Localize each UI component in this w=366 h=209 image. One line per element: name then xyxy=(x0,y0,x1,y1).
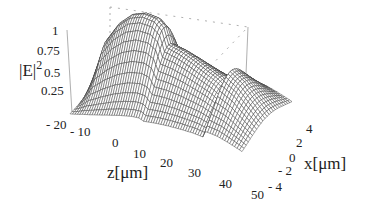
zcoord-tick-30: 30 xyxy=(188,166,201,179)
wireframe-mesh xyxy=(70,13,292,152)
zcoord-tick-40: 40 xyxy=(219,177,232,190)
ztick-1: 1 xyxy=(52,24,59,37)
xtick-m4: - 4 xyxy=(268,180,282,193)
z-axis-title: |E|2 xyxy=(19,59,42,79)
ztick-075: 0.75 xyxy=(37,44,60,57)
zcoord-tick-m10: - 10 xyxy=(70,125,91,138)
x-axis-title: x[μm] xyxy=(304,155,346,172)
zcoord-tick-m20: - 20 xyxy=(46,118,67,131)
ztick-05: 0.5 xyxy=(44,66,60,79)
xtick-m2: - 2 xyxy=(278,164,292,177)
zcoord-tick-50: 50 xyxy=(251,188,264,201)
zcoord-tick-20: 20 xyxy=(160,156,173,169)
zcoord-tick-0: 0 xyxy=(112,136,119,149)
zcoord-tick-10: 10 xyxy=(133,147,146,160)
zcoord-axis-title: z[μm] xyxy=(107,164,148,181)
xtick-2: 2 xyxy=(296,136,303,149)
xtick-4: 4 xyxy=(306,122,313,135)
ztick-025: 0.25 xyxy=(41,84,64,97)
